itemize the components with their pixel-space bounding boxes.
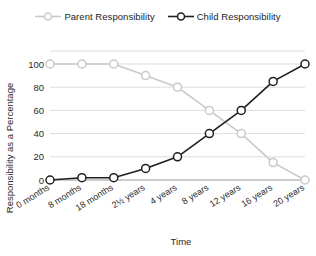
data-point-marker	[142, 164, 150, 172]
data-point-marker	[269, 159, 277, 167]
series-line	[50, 64, 305, 180]
legend-marker-parent-icon	[35, 11, 61, 22]
y-axis-tick-label: 100	[28, 59, 44, 70]
y-axis-tick-label: 80	[33, 82, 44, 93]
data-point-marker	[174, 153, 182, 161]
x-axis-title: Time	[171, 236, 192, 247]
data-point-marker	[205, 106, 213, 114]
y-axis-tick-label: 20	[33, 151, 44, 162]
plot-area: Responsibility as a Percentage 020406080…	[0, 26, 316, 256]
data-point-marker	[301, 176, 309, 184]
data-point-marker	[174, 83, 182, 91]
y-axis-title: Responsibility as a Percentage	[4, 83, 15, 213]
line-chart: Parent Responsibility Child Responsibili…	[0, 0, 316, 256]
data-point-marker	[301, 60, 309, 68]
x-axis-tick-labels: 0 months8 months18 months2½ years4 years…	[14, 182, 306, 213]
legend-label-child-responsibility: Child Responsibility	[197, 11, 281, 22]
legend-item-child-responsibility: Child Responsibility	[168, 11, 281, 22]
x-axis-tick-label: 20 years	[271, 182, 306, 209]
data-point-marker	[46, 176, 54, 184]
data-point-marker	[110, 60, 118, 68]
legend-label-parent-responsibility: Parent Responsibility	[64, 11, 154, 22]
chart-legend: Parent Responsibility Child Responsibili…	[0, 7, 316, 25]
data-point-marker	[269, 77, 277, 85]
x-axis-tick-label: 12 years	[208, 182, 243, 209]
series-line	[50, 64, 305, 180]
x-axis-tick-label: 2½ years	[110, 182, 147, 210]
x-axis-tick-label: 8 years	[180, 182, 211, 206]
data-point-marker	[78, 174, 86, 182]
legend-item-parent-responsibility: Parent Responsibility	[35, 11, 154, 22]
y-axis-tick-label: 60	[33, 105, 44, 116]
legend-marker-child-icon	[168, 11, 194, 22]
data-point-marker	[205, 130, 213, 138]
data-point-marker	[237, 106, 245, 114]
gridlines	[50, 51, 305, 157]
y-axis-tick-label: 40	[33, 128, 44, 139]
x-axis-tick-label: 4 years	[148, 182, 179, 206]
x-axis-tick-label: 16 years	[240, 182, 275, 209]
plot-svg: Responsibility as a Percentage 020406080…	[0, 26, 316, 256]
x-axis-tick-label: 0 months	[14, 182, 51, 210]
data-point-marker	[46, 60, 54, 68]
y-axis-tick-labels: 020406080100	[28, 59, 44, 186]
data-point-marker	[110, 174, 118, 182]
data-point-marker	[237, 130, 245, 138]
data-point-marker	[142, 72, 150, 80]
data-point-marker	[78, 60, 86, 68]
